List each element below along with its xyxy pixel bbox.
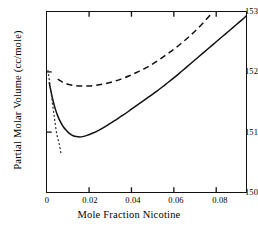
series-dotted-curve bbox=[48, 71, 61, 153]
series-solid-curve bbox=[49, 16, 246, 137]
series-dashed-curve bbox=[58, 14, 211, 86]
y-axis-title-wrap: Partial Molar Volume (cc/mole) bbox=[12, 0, 28, 200]
x-axis-title: Mole Fraction Nicotine bbox=[0, 209, 258, 220]
y-axis-title: Partial Molar Volume (cc/mole) bbox=[12, 0, 23, 200]
tick-marks bbox=[47, 12, 217, 193]
figure-chart: 153 152 151 150 0 0.02 0.04 0.06 0.08 Mo… bbox=[0, 0, 258, 228]
curves-overlay bbox=[0, 0, 258, 228]
